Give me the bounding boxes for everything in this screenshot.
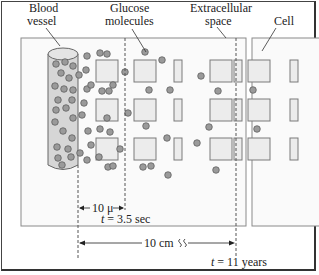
glucose-molecule	[146, 87, 153, 94]
glucose-molecule	[53, 61, 60, 68]
glucose-molecule	[60, 128, 67, 135]
cell	[210, 138, 232, 160]
glucose-molecule	[70, 87, 77, 94]
cell	[248, 99, 270, 121]
glucose-molecule	[159, 57, 166, 64]
cell	[290, 138, 298, 160]
cell	[134, 99, 156, 121]
glucose-molecule	[62, 59, 69, 66]
glucose-molecule	[254, 126, 261, 133]
glucose-molecule	[143, 123, 150, 130]
glucose-molecule	[68, 154, 75, 161]
glucose-molecule	[110, 163, 117, 170]
cell	[248, 138, 270, 160]
glucose-molecule	[81, 100, 88, 107]
glucose-molecule	[104, 51, 111, 58]
label-glucose-1: Glucose	[110, 1, 149, 15]
glucose-molecule	[59, 162, 66, 169]
glucose-molecule	[198, 73, 205, 80]
cell	[210, 99, 232, 121]
glucose-molecule	[165, 172, 172, 179]
label-blood-vessel-1: Blood	[29, 1, 58, 15]
label-blood-vessel-2: vessel	[27, 14, 57, 28]
cell	[234, 138, 242, 160]
diffusion-diagram: Blood vessel Glucose molecules Extracell…	[0, 0, 319, 275]
glucose-molecule	[107, 129, 114, 136]
cell	[134, 138, 156, 160]
glucose-molecule	[97, 50, 104, 57]
glucose-molecule	[55, 97, 62, 104]
cell	[174, 99, 182, 121]
glucose-molecule	[70, 63, 77, 70]
glucose-molecule	[83, 67, 90, 74]
glucose-molecule	[99, 88, 106, 95]
cell	[174, 60, 182, 82]
distance-10cm: 10 cm	[144, 236, 174, 250]
glucose-molecule	[52, 119, 59, 126]
label-glucose-2: molecules	[105, 14, 154, 28]
cell	[290, 99, 298, 121]
glucose-molecule	[55, 155, 62, 162]
glucose-molecule	[70, 115, 77, 122]
glucose-molecule	[206, 124, 213, 131]
glucose-molecule	[84, 53, 91, 60]
time-3-5-sec: t = 3.5 sec	[101, 212, 150, 226]
glucose-molecule	[84, 157, 91, 164]
glucose-molecule	[61, 86, 68, 93]
glucose-molecule	[194, 140, 201, 147]
cell	[134, 60, 156, 82]
glucose-molecule	[88, 142, 95, 149]
cell	[234, 99, 242, 121]
glucose-molecule	[148, 163, 155, 170]
glucose-molecule	[117, 146, 124, 153]
glucose-molecule	[65, 146, 72, 153]
glucose-molecule	[69, 97, 76, 104]
glucose-molecule	[125, 110, 132, 117]
glucose-molecule	[69, 135, 76, 142]
label-extracellular-1: Extracellular	[190, 1, 252, 15]
glucose-molecule	[215, 88, 222, 95]
glucose-molecule	[88, 82, 95, 89]
glucose-molecule	[52, 83, 59, 90]
glucose-molecule	[106, 88, 113, 95]
glucose-molecule	[213, 167, 220, 174]
glucose-molecule	[53, 107, 60, 114]
glucose-molecule	[164, 135, 171, 142]
glucose-molecule	[79, 112, 86, 119]
leader-extracellular	[217, 27, 226, 38]
glucose-molecule	[58, 70, 65, 77]
glucose-molecule	[140, 164, 147, 171]
glucose-molecule	[97, 126, 104, 133]
cell	[234, 60, 242, 82]
glucose-molecule	[66, 75, 73, 82]
cell	[248, 60, 270, 82]
label-cell: Cell	[274, 14, 295, 28]
glucose-molecule	[250, 87, 257, 94]
glucose-molecule	[54, 144, 61, 151]
cell	[210, 60, 232, 82]
glucose-molecule	[96, 154, 103, 161]
glucose-molecule	[85, 128, 92, 135]
label-extracellular-2: space	[205, 14, 232, 28]
glucose-molecule	[63, 105, 70, 112]
glucose-molecule	[167, 87, 174, 94]
cell	[174, 138, 182, 160]
cell	[96, 60, 118, 82]
time-11-years: t = 11 years	[211, 255, 267, 269]
cell	[290, 60, 298, 82]
glucose-molecule	[76, 72, 83, 79]
measurement-10cm: 10 cm	[79, 236, 235, 250]
glucose-molecule	[110, 82, 117, 89]
glucose-molecule	[104, 115, 111, 122]
glucose-molecule	[77, 150, 84, 157]
